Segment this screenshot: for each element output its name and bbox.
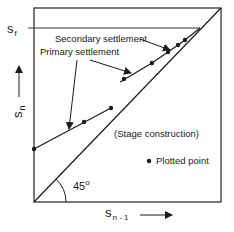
plotted-point	[82, 120, 86, 124]
settlement-diagram: sf Secondary settlement Primary settleme…	[0, 0, 234, 232]
y-axis-label: sn	[10, 105, 27, 118]
angle-arc	[56, 179, 66, 202]
plotted-point	[183, 38, 187, 42]
s-f-label: sf	[7, 21, 18, 38]
primary-arrow-upper	[90, 60, 131, 73]
plotted-point	[176, 43, 180, 47]
secondary-settlement-label: Secondary settlement	[55, 33, 147, 44]
primary-settlement-label: Primary settlement	[40, 46, 120, 57]
stage-construction-label: (Stage construction)	[114, 128, 199, 139]
angle-label: 45o	[73, 178, 90, 192]
legend-point-icon	[147, 159, 151, 163]
legend-plotted-point-label: Plotted point	[156, 155, 209, 166]
plotted-point	[32, 147, 36, 151]
plotted-point	[109, 106, 113, 110]
plotted-point	[166, 50, 170, 54]
primary-arrow-lower	[69, 60, 77, 129]
x-axis-label: sn - 1	[105, 205, 129, 222]
lower-settlement-line	[34, 108, 111, 149]
plotted-point	[122, 77, 126, 81]
plotted-point	[150, 61, 154, 65]
